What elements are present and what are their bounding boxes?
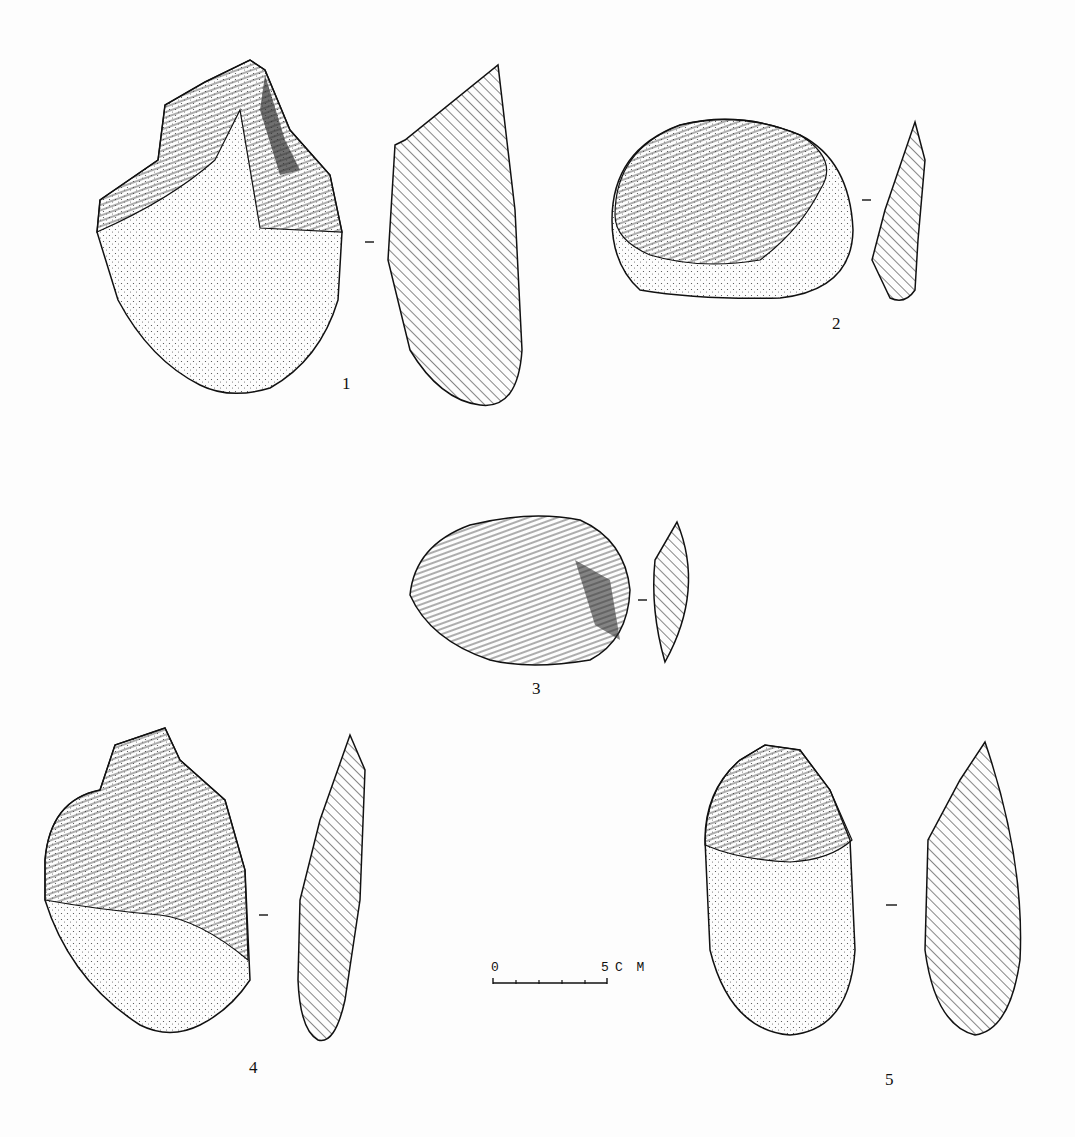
figure-label-5: 5 (885, 1070, 894, 1090)
figure-label-4: 4 (249, 1058, 258, 1078)
artifact-3-drawing (410, 516, 630, 665)
document-page: 1 2 3 4 5 0 5 C M (0, 0, 1075, 1137)
artifact-2-drawing (612, 119, 853, 298)
artifact-5-drawing (705, 745, 855, 1035)
artifact-4-drawing (45, 728, 250, 1033)
scale-start: 0 (491, 960, 499, 975)
artifact-1-section (388, 65, 522, 405)
figure-label-3: 3 (532, 679, 541, 699)
artifact-1-drawing (97, 60, 342, 393)
artifact-5-section (925, 742, 1021, 1035)
artifact-2-section (872, 122, 925, 300)
artifact-3-section (654, 522, 689, 662)
figure-label-1: 1 (342, 374, 351, 394)
scale-bar: 0 5 C M (493, 960, 613, 1000)
scale-end: 5 (601, 960, 609, 975)
artifact-4-section (298, 735, 365, 1041)
scale-unit: C M (615, 960, 647, 975)
figure-label-2: 2 (832, 314, 841, 334)
